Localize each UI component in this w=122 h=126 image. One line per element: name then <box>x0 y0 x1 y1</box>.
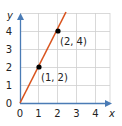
point-1-2 <box>36 64 41 69</box>
x-axis-label: x <box>108 108 115 119</box>
y-axis-label: y <box>6 10 14 21</box>
y-tick-1: 1 <box>6 80 12 91</box>
y-tick-0: 0 <box>6 98 12 109</box>
x-tick-4: 4 <box>92 108 98 119</box>
point-label-2-4: (2, 4) <box>60 36 87 47</box>
y-tick-2: 2 <box>6 62 12 73</box>
grid <box>20 13 110 103</box>
x-tick-2: 2 <box>54 108 60 119</box>
point-label-1-2: (1, 2) <box>41 72 68 83</box>
chart: (1, 2) (2, 4) 0 1 2 3 4 x 0 1 2 3 4 y <box>0 0 122 126</box>
x-tick-0: 0 <box>17 108 23 119</box>
x-tick-1: 1 <box>35 108 41 119</box>
y-tick-3: 3 <box>6 44 12 55</box>
line-y-2x <box>20 12 66 103</box>
x-tick-3: 3 <box>73 108 79 119</box>
y-tick-4: 4 <box>6 26 12 37</box>
point-2-4 <box>55 28 60 33</box>
axes <box>17 13 112 107</box>
